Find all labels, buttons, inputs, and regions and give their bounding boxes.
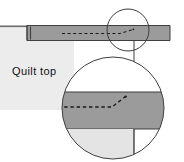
- seam-end-marker-main: [133, 28, 135, 30]
- diagram-canvas: Quilt top: [0, 0, 184, 162]
- quilt-top-label: Quilt top: [12, 65, 57, 77]
- quilt-top-edge-line: [0, 26, 27, 28]
- binding-strip-magnified: [58, 92, 170, 129]
- quilting-diagram: Quilt top: [0, 0, 184, 162]
- seam-end-marker-magnified: [124, 95, 126, 97]
- magnified-detail: [58, 57, 170, 162]
